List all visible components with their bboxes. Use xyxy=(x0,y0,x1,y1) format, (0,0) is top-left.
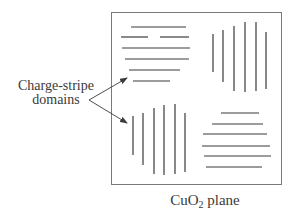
charge-stripe-domains-label: Charge-stripe domains xyxy=(8,79,104,107)
cuo2-plane-diagram xyxy=(0,0,297,220)
label-line-2: domains xyxy=(8,93,104,107)
domain-bottom-right-horizontal-stripes xyxy=(202,113,271,167)
formula-suffix: plane xyxy=(204,192,240,208)
cuo2-plane-label: CuO2 plane xyxy=(150,193,260,207)
domain-top-right-vertical-stripes xyxy=(213,22,266,92)
domain-top-left-horizontal-stripes xyxy=(121,27,190,81)
formula-prefix: CuO xyxy=(170,192,198,208)
label-line-1: Charge-stripe xyxy=(8,79,104,93)
domain-bottom-left-vertical-stripes xyxy=(133,104,185,175)
